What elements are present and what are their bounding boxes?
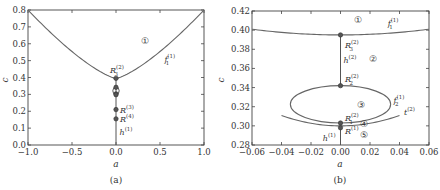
x-tick-label: 0.04 bbox=[390, 147, 409, 157]
point-r12 bbox=[338, 121, 342, 125]
y-axis-label-b: c bbox=[216, 77, 226, 82]
x-tick-label: 0.0 bbox=[109, 147, 123, 157]
y-tick-label: 0.34 bbox=[231, 83, 250, 93]
point-r1 bbox=[114, 93, 118, 97]
point-r3 bbox=[114, 107, 118, 111]
region-label: ④ bbox=[360, 119, 368, 129]
x-tick-label: 0.00 bbox=[331, 147, 350, 157]
y-tick-label: 0.36 bbox=[231, 63, 250, 73]
y-tick-label: 0.2 bbox=[12, 106, 26, 116]
figure: −1.0−0.50.00.51.00.00.10.20.30.40.50.60.… bbox=[0, 0, 440, 190]
y-tick-label: 0.3 bbox=[12, 89, 26, 99]
caption-a: (a) bbox=[110, 175, 122, 185]
y-tick-label: 0.8 bbox=[12, 5, 26, 15]
point-r4 bbox=[114, 117, 118, 121]
region-label: ③ bbox=[357, 100, 365, 110]
label-r1: R(1) bbox=[344, 125, 359, 136]
y-axis-label-a: c bbox=[0, 77, 10, 82]
x-tick-label: 0.02 bbox=[361, 147, 380, 157]
y-tick-label: 0.32 bbox=[231, 102, 250, 112]
y-tick-label: 0.4 bbox=[12, 73, 26, 83]
y-tick-label: 0.6 bbox=[12, 39, 26, 49]
y-tick-label: 0.1 bbox=[12, 123, 26, 133]
panel-a: −1.0−0.50.00.51.00.00.10.20.30.40.50.60.… bbox=[0, 5, 211, 185]
x-tick-label: 0.06 bbox=[420, 147, 439, 157]
label-r32: R(2)3 bbox=[109, 64, 124, 77]
label-r32: R(2)3 bbox=[344, 39, 359, 52]
point-r22 bbox=[114, 85, 118, 89]
y-tick-label: 0.42 bbox=[231, 6, 250, 16]
y-tick-label: 0.40 bbox=[231, 25, 250, 35]
x-tick-label: 1.0 bbox=[197, 147, 211, 157]
caption-b: (b) bbox=[334, 175, 347, 185]
region-label: ⑤ bbox=[360, 130, 368, 140]
label-h1: h(1) bbox=[323, 132, 336, 143]
point-r1 bbox=[338, 126, 342, 130]
label-f2: f(1)2 bbox=[393, 94, 405, 107]
label-f1: f(1)1 bbox=[387, 17, 399, 30]
y-tick-label: 0.5 bbox=[12, 56, 26, 66]
x-tick-label: 0.5 bbox=[153, 147, 167, 157]
y-tick-label: 0.28 bbox=[231, 140, 250, 150]
y-tick-label: 0.38 bbox=[231, 44, 250, 54]
label-r22: R(2)2 bbox=[344, 73, 359, 86]
x-tick-label: −0.5 bbox=[62, 147, 83, 157]
point-r22 bbox=[338, 83, 342, 87]
curve-f2 bbox=[290, 86, 390, 123]
y-tick-label: 0.0 bbox=[12, 140, 26, 150]
region-label: ① bbox=[141, 36, 149, 46]
label-t2: t(2) bbox=[404, 106, 415, 117]
label-f1: f(1)1 bbox=[163, 53, 175, 66]
x-tick-label: −0.04 bbox=[268, 147, 294, 157]
point-r32 bbox=[338, 33, 342, 37]
y-tick-label: 0.30 bbox=[231, 121, 250, 131]
region-label: ② bbox=[369, 54, 377, 64]
panel-b: −0.06−0.04−0.020.000.020.040.060.280.300… bbox=[216, 6, 438, 185]
x-axis-label-a: a bbox=[113, 159, 118, 169]
y-tick-label: 0.7 bbox=[12, 22, 26, 32]
label-h2: h(2) bbox=[343, 54, 356, 65]
region-label: ① bbox=[354, 15, 362, 25]
x-tick-label: −0.02 bbox=[298, 147, 324, 157]
label-h1: h(1) bbox=[120, 126, 133, 137]
label-r4: R(4) bbox=[119, 113, 134, 124]
x-axis-label-b: a bbox=[337, 159, 342, 169]
